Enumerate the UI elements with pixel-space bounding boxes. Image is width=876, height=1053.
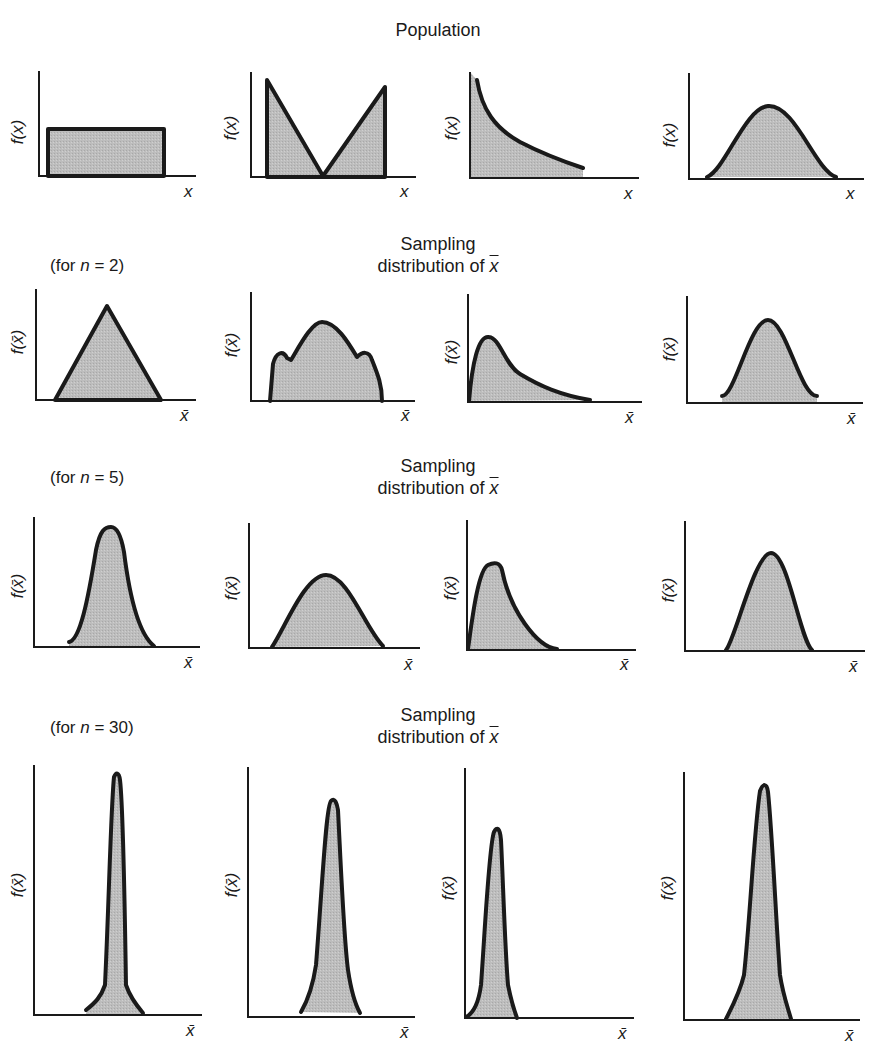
plot-n2-v bbox=[270, 322, 382, 401]
y-label: f(x̄) bbox=[8, 330, 27, 355]
x-label: x bbox=[183, 182, 193, 201]
area-triangle bbox=[55, 306, 161, 400]
plot-n2-uniform bbox=[55, 306, 161, 400]
y-label: f(x̄) bbox=[222, 333, 241, 358]
y-label: f(x̄) bbox=[441, 576, 460, 601]
y-label: f(x̄) bbox=[222, 873, 241, 898]
y-label: f(x̄) bbox=[8, 574, 27, 599]
area-v bbox=[267, 80, 385, 177]
y-labels: f(x) f(x) f(x) f(x) f(x̄) f(x̄) f(x̄) f(… bbox=[8, 116, 679, 901]
plot-n5-normal bbox=[726, 553, 812, 650]
x-label: x bbox=[845, 184, 855, 203]
plot-n30-exp bbox=[466, 829, 517, 1018]
x-label: x̄ bbox=[846, 409, 856, 428]
area-n30-uniform-fill bbox=[86, 774, 143, 1015]
plot-population-uniform bbox=[48, 129, 164, 176]
area-n2-normal-fill bbox=[722, 320, 817, 403]
x-label: x̄ bbox=[624, 408, 634, 427]
plot-n30-uniform bbox=[86, 774, 143, 1015]
plot-population-normal bbox=[707, 106, 836, 177]
x-label: x̄ bbox=[848, 657, 858, 676]
area-n5-normal-fill bbox=[726, 553, 812, 650]
plot-population-exponential bbox=[470, 72, 583, 178]
y-label: f(x̄) bbox=[658, 876, 677, 901]
x-label: x̄ bbox=[844, 1026, 854, 1045]
area-n5-v-fill bbox=[272, 575, 383, 647]
y-label: f(x̄) bbox=[439, 876, 458, 901]
y-label: f(x̄) bbox=[8, 873, 27, 898]
plot-n5-exp bbox=[468, 563, 557, 649]
y-label: f(x̄) bbox=[659, 578, 678, 603]
area-n2-v-fill bbox=[270, 322, 382, 401]
x-label: x̄ bbox=[400, 406, 410, 425]
clt-figure: Population Sampling distribution of x (f… bbox=[0, 0, 876, 1053]
y-label: f(x̄) bbox=[660, 337, 679, 362]
x-label: x̄ bbox=[185, 1021, 195, 1040]
x-label: x̄ bbox=[617, 1024, 627, 1043]
y-label: f(x) bbox=[660, 123, 679, 148]
x-label: x̄ bbox=[403, 655, 413, 674]
area-uniform bbox=[48, 129, 164, 176]
y-label: f(x̄) bbox=[442, 340, 461, 365]
plot-n2-exp bbox=[469, 337, 590, 401]
x-label: x bbox=[399, 182, 409, 201]
x-label: x̄ bbox=[179, 406, 189, 425]
plot-n2-normal bbox=[722, 320, 817, 403]
y-label: f(x) bbox=[221, 116, 240, 141]
x-label: x̄ bbox=[619, 655, 629, 674]
x-label: x̄ bbox=[183, 653, 193, 672]
x-label: x bbox=[623, 184, 633, 203]
plot-n30-v bbox=[301, 800, 360, 1013]
plot-n5-v bbox=[272, 575, 383, 647]
area-n2-exp-fill bbox=[469, 337, 590, 401]
plot-n5-uniform bbox=[69, 527, 154, 647]
y-label: f(x̄) bbox=[222, 576, 241, 601]
plots-canvas: f(x) f(x) f(x) f(x) f(x̄) f(x̄) f(x̄) f(… bbox=[0, 0, 876, 1053]
y-label: f(x) bbox=[442, 116, 461, 141]
area-normal-fill bbox=[707, 106, 836, 177]
plot-n30-normal bbox=[726, 785, 791, 1019]
y-label: f(x) bbox=[8, 120, 27, 145]
x-label: x̄ bbox=[399, 1023, 409, 1042]
plot-population-v bbox=[267, 80, 385, 177]
